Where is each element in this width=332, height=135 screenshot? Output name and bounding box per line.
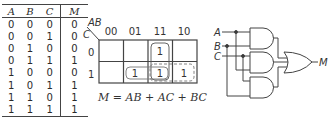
or-gate xyxy=(284,52,312,73)
wire-b-to-and3 xyxy=(227,46,250,96)
wire-and1-to-or xyxy=(273,38,287,58)
wire-and3-to-or xyxy=(273,67,287,87)
and-gate-1 xyxy=(250,28,274,49)
logic-circuit: A B C M xyxy=(0,0,332,135)
output-label-m: M xyxy=(319,57,328,68)
input-label-c: C xyxy=(214,51,221,62)
and-gate-3 xyxy=(250,77,274,98)
wire-c-to-and3 xyxy=(243,56,250,81)
and-gate-2 xyxy=(250,52,274,73)
input-label-a: A xyxy=(213,27,221,38)
